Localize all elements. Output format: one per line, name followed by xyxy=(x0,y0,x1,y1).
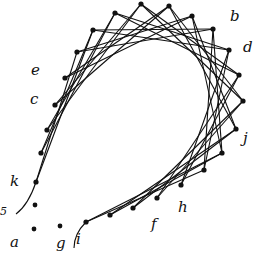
ring-dot xyxy=(236,72,241,77)
chord-line xyxy=(86,153,222,222)
point-label-a: a xyxy=(10,233,19,251)
loose-dot xyxy=(58,224,63,229)
ring-dot xyxy=(107,212,112,217)
chord-line xyxy=(110,153,222,215)
ring-dot xyxy=(74,49,79,54)
ring-dot xyxy=(52,102,57,107)
string-art-diagram: bdecjkhfagi5 xyxy=(0,0,255,256)
ring-dot xyxy=(90,27,95,32)
point-label-c: c xyxy=(30,90,39,108)
chord-line xyxy=(169,6,236,129)
ring-dot xyxy=(38,150,43,155)
point-label-i: i xyxy=(76,230,81,248)
ring-dot xyxy=(33,179,38,184)
point-label-b: b xyxy=(230,7,240,25)
ring-dot xyxy=(178,182,183,187)
loose-dot xyxy=(32,227,37,232)
ring-dot xyxy=(233,126,238,131)
ring-dot xyxy=(112,10,117,15)
ring-dot xyxy=(189,13,194,18)
chord-line xyxy=(65,16,192,78)
chord-line xyxy=(181,75,239,185)
chord-line xyxy=(93,30,229,50)
chord-line xyxy=(110,129,236,215)
ring-dot xyxy=(83,219,88,224)
chord-line xyxy=(133,129,236,208)
ring-dot xyxy=(219,150,224,155)
point-label-d: d xyxy=(243,38,253,56)
chord-line xyxy=(47,4,141,130)
chord-lines xyxy=(36,4,243,222)
chord-line xyxy=(41,13,115,153)
chord-line xyxy=(157,101,243,198)
point-label-g: g xyxy=(56,234,66,252)
ring-dot xyxy=(210,26,215,31)
chord-line xyxy=(133,101,243,208)
chord-line xyxy=(77,16,192,52)
point-label-e: e xyxy=(31,61,40,79)
ring-dot xyxy=(130,205,135,210)
point-label-h: h xyxy=(178,198,188,216)
loose-dot xyxy=(33,203,38,208)
ring-dot xyxy=(44,127,49,132)
loose-dots xyxy=(32,203,63,232)
ring-dot xyxy=(62,75,67,80)
ring-dot xyxy=(201,167,206,172)
ring-dot xyxy=(226,47,231,52)
point-label-k: k xyxy=(10,172,19,190)
point-label-f: f xyxy=(150,215,159,233)
ring-dot xyxy=(166,3,171,8)
ring-dot xyxy=(138,1,143,6)
chord-line xyxy=(65,6,169,78)
ring-dot xyxy=(240,98,245,103)
chord-line xyxy=(47,13,115,130)
point-label-5: 5 xyxy=(0,205,7,218)
ring-dot xyxy=(154,195,159,200)
point-label-j: j xyxy=(240,129,248,147)
